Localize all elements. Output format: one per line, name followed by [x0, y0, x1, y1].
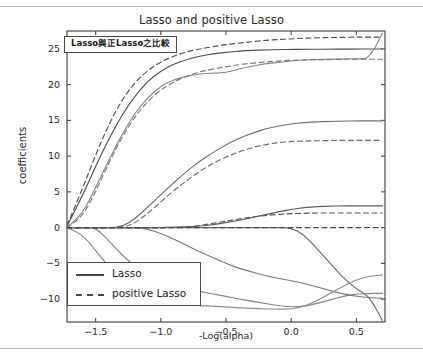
- series-line-positive-lasso-2: [67, 59, 382, 227]
- y-tick-label: 5: [34, 186, 60, 197]
- legend-label: Lasso: [112, 267, 142, 279]
- series-line-positive-lasso-1: [67, 37, 382, 225]
- x-tick-label: 0.5: [336, 326, 376, 337]
- series-line-positive-lasso-4: [67, 213, 382, 228]
- y-tick-label: −5: [34, 257, 60, 268]
- y-tick-label: 15: [34, 114, 60, 125]
- figure-canvas: Lasso and positive Lasso coefficients -L…: [0, 0, 423, 356]
- legend-swatch-solid: [76, 274, 104, 276]
- series-line-lasso-4: [67, 206, 382, 228]
- y-tick-label: 25: [34, 43, 60, 54]
- x-tick-label: 0.0: [271, 326, 311, 337]
- y-tick-label: 20: [34, 79, 60, 90]
- x-tick-label: −1.0: [141, 326, 181, 337]
- series-line-lasso-2: [67, 33, 382, 227]
- y-tick-label: 0: [34, 222, 60, 233]
- legend-label: positive Lasso: [112, 287, 186, 299]
- series-line-lasso-1: [67, 49, 382, 226]
- y-axis-label: coefficients: [17, 96, 28, 216]
- legend: Lasso positive Lasso: [67, 262, 201, 306]
- y-tick-label: 10: [34, 150, 60, 161]
- x-tick-label: −1.5: [76, 326, 116, 337]
- x-tick-label: −0.5: [206, 326, 246, 337]
- plot-area: [0, 0, 423, 356]
- legend-item: Lasso: [68, 265, 202, 285]
- legend-swatch-dashed: [76, 294, 104, 296]
- series-line-lasso-3: [67, 121, 382, 228]
- legend-item: positive Lasso: [68, 285, 202, 305]
- annotation-textbox: Lasso與正Lasso之比較: [64, 36, 177, 53]
- y-tick-label: −10: [34, 293, 60, 304]
